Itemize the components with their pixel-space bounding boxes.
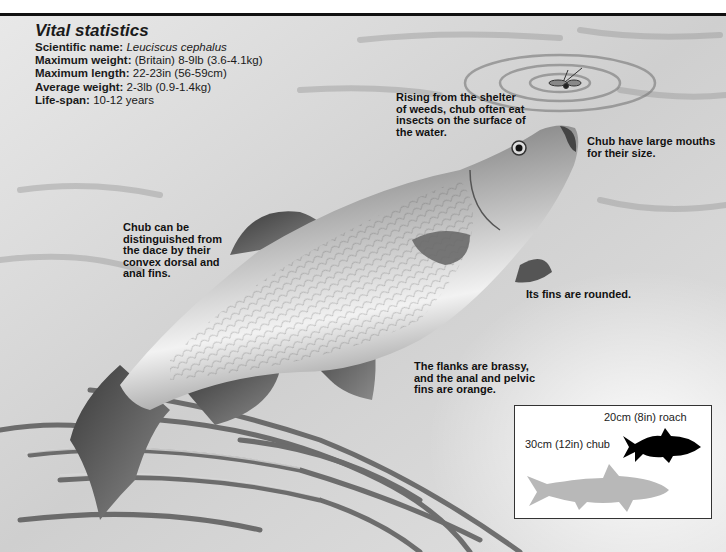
chub-size-label: 30cm (12in) chub bbox=[525, 438, 610, 450]
stat-row-life-span: Life-span: 10-12 years bbox=[35, 94, 263, 107]
stat-row-max-weight: Maximum weight: (Britain) 8-9lb (3.6-4.1… bbox=[35, 54, 263, 67]
annotation-flanks: The flanks are brassy, and the anal and … bbox=[414, 361, 535, 396]
stat-row-average-weight: Average weight: 2-3lb (0.9-1.4kg) bbox=[35, 81, 263, 94]
chub-silhouette-icon bbox=[523, 456, 673, 518]
stat-row-scientific-name: Scientific name: Leuciscus cephalus bbox=[35, 41, 263, 54]
annotation-rounded-fins: Its fins are rounded. bbox=[526, 289, 631, 301]
top-margin bbox=[0, 0, 726, 13]
size-comparison-inset: 20cm (8in) roach 30cm (12in) chub bbox=[514, 405, 712, 519]
illustration-canvas: Vital statistics Scientific name: Leucis… bbox=[0, 0, 726, 552]
vital-statistics-panel: Vital statistics Scientific name: Leucis… bbox=[35, 22, 263, 107]
annotation-convex-fins: Chub can be distinguished from the dace … bbox=[123, 222, 222, 280]
annotation-surface-feeding: Rising from the shelter of weeds, chub o… bbox=[396, 92, 526, 138]
vital-statistics-title: Vital statistics bbox=[35, 22, 263, 40]
stat-row-max-length: Maximum length: 22-23in (56-59cm) bbox=[35, 67, 263, 80]
roach-size-label: 20cm (8in) roach bbox=[604, 411, 687, 423]
annotation-large-mouths: Chub have large mouths for their size. bbox=[587, 136, 715, 159]
top-rule-divider bbox=[0, 13, 726, 16]
